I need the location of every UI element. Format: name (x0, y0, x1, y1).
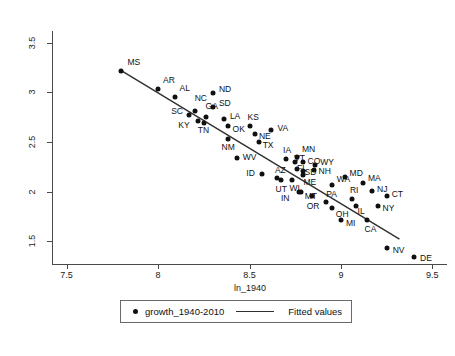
data-point-label: WV (243, 153, 257, 162)
data-point-label: NJ (377, 185, 387, 194)
data-point-label: NV (393, 246, 405, 255)
data-point (311, 167, 316, 172)
data-point (119, 68, 124, 73)
data-point-label: NM (222, 143, 235, 152)
data-point (329, 182, 334, 187)
data-point-label: CA (365, 225, 377, 234)
data-point (329, 206, 334, 211)
data-point-label: MD (350, 169, 363, 178)
data-point (225, 124, 230, 129)
data-point-label: LA (230, 112, 240, 121)
data-point-label: IN (281, 194, 290, 203)
data-point (247, 124, 252, 129)
data-point (384, 246, 389, 251)
legend-line-icon (236, 311, 274, 313)
data-point-label: AL (180, 84, 190, 93)
data-point (210, 91, 215, 96)
data-point-label: AR (163, 76, 175, 85)
data-point (296, 189, 301, 194)
data-point (187, 113, 192, 118)
y-tick-label: 1.5 (27, 235, 37, 248)
x-tick-mark (250, 264, 251, 269)
legend-fit-label: Fitted values (288, 306, 342, 317)
data-point-label: NY (383, 204, 395, 213)
legend-scatter-label: growth_1940-2010 (145, 306, 224, 317)
data-point-label: SC (171, 107, 183, 116)
x-tick-label: 8 (156, 270, 161, 280)
data-point-label: NH (319, 167, 331, 176)
data-point (225, 137, 230, 142)
data-point (196, 119, 201, 124)
x-axis-title: ln_1940 (234, 283, 266, 293)
data-point-label: IL (358, 207, 365, 216)
data-point (338, 218, 343, 223)
y-tick-label: 3 (27, 90, 37, 95)
data-point (360, 180, 365, 185)
data-point-label: OR (307, 202, 320, 211)
x-tick-label: 8.5 (243, 270, 256, 280)
data-point-label: MS (127, 58, 140, 67)
data-point (221, 117, 226, 122)
data-point-label: AZ (275, 166, 286, 175)
y-tick-mark (47, 241, 52, 242)
data-point (172, 95, 177, 100)
data-point-label: PA (326, 190, 337, 199)
y-tick-label: 3.5 (27, 37, 37, 50)
data-point (192, 109, 197, 114)
data-point-label: SD (219, 99, 231, 108)
data-point-label: VA (277, 124, 288, 133)
data-point (256, 140, 261, 145)
x-tick-mark (432, 264, 433, 269)
x-tick-mark (67, 264, 68, 269)
x-tick-label: 7.5 (60, 270, 73, 280)
data-point-label: CT (392, 190, 403, 199)
x-tick-mark (158, 264, 159, 269)
data-point-label: MI (346, 219, 355, 228)
data-point-label: KS (248, 113, 259, 122)
data-point (260, 171, 265, 176)
data-point (309, 193, 314, 198)
x-tick-label: 9 (338, 270, 343, 280)
data-point-label: DE (420, 254, 432, 263)
data-point-label: ND (219, 85, 231, 94)
data-point (234, 155, 239, 160)
data-point (375, 204, 380, 209)
data-point-label: IA (283, 146, 291, 155)
data-point (252, 132, 257, 137)
data-point (370, 188, 375, 193)
y-tick-label: 2.5 (27, 136, 37, 149)
scatter-plot-figure: 1.522.533.5 7.588.599.5 ln_1940 MSARALND… (0, 0, 455, 356)
y-tick-label: 2 (27, 189, 37, 194)
data-point (364, 218, 369, 223)
data-point (289, 177, 294, 182)
data-point-label: TN (198, 126, 209, 135)
data-point (203, 115, 208, 120)
data-point-label: RI (350, 186, 359, 195)
data-point (284, 156, 289, 161)
data-point-label: GA (206, 102, 218, 111)
data-point-label: ME (304, 178, 317, 187)
x-tick-mark (341, 264, 342, 269)
data-point (278, 177, 283, 182)
data-point-label: UT (276, 185, 287, 194)
y-axis-line (52, 31, 53, 264)
chart-legend: growth_1940-2010 Fitted values (120, 300, 352, 323)
data-point (324, 199, 329, 204)
legend-marker-icon (133, 309, 138, 314)
data-point-label: MA (368, 174, 381, 183)
data-point (384, 193, 389, 198)
data-point (349, 196, 354, 201)
y-tick-mark (47, 192, 52, 193)
data-point (156, 87, 161, 92)
data-point-label: TX (263, 141, 274, 150)
data-point-label: ID (246, 169, 255, 178)
data-point (412, 255, 417, 260)
x-tick-label: 9.5 (426, 270, 439, 280)
y-tick-mark (47, 43, 52, 44)
data-point-label: OK (233, 125, 245, 134)
data-point (342, 174, 347, 179)
data-point-label: KY (178, 121, 189, 130)
y-tick-mark (47, 142, 52, 143)
y-tick-mark (47, 92, 52, 93)
